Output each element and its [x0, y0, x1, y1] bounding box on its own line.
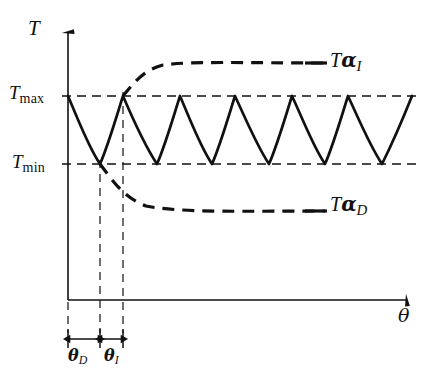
y-axis-label-text: T [28, 16, 40, 40]
tmin-tick-label: Tmin [12, 152, 45, 174]
sawtooth-temperature-curve [68, 96, 412, 164]
t-alpha-d-envelope-curve [100, 164, 325, 211]
t-alpha-i-label: TαI [330, 50, 361, 74]
tmin-label-main: T [12, 151, 23, 172]
tmax-label-main: T [9, 82, 20, 103]
t-alpha-d-label: TαD [330, 194, 367, 218]
temperature-oscillation-figure: T Tmax Tmin TαI TαD θ θD θI [0, 0, 431, 383]
theta-d-dimension-label: θD [68, 348, 87, 367]
t-alpha-i-label-greek: α [341, 48, 356, 72]
t-alpha-d-label-main: T [330, 193, 341, 215]
theta-i-label-sub: I [115, 353, 119, 367]
theta-i-label-main: θ [104, 346, 115, 365]
y-axis-label: T [28, 18, 40, 39]
chart-canvas [0, 0, 431, 383]
t-alpha-d-label-sub: D [357, 202, 368, 218]
x-axis-label-text: θ [398, 304, 409, 326]
t-alpha-d-label-greek: α [341, 192, 356, 216]
guide-lines [68, 92, 123, 333]
tmin-label-sub: min [23, 159, 45, 175]
t-alpha-i-label-main: T [330, 49, 341, 71]
x-axis-label: θ [398, 306, 409, 325]
t-alpha-i-envelope-curve [123, 63, 325, 97]
theta-i-dimension-label: θI [104, 348, 119, 367]
theta-d-label-main: θ [68, 346, 79, 365]
t-alpha-i-label-sub: I [357, 58, 362, 74]
tmax-tick-label: Tmax [9, 83, 44, 105]
tmax-label-sub: max [20, 90, 45, 106]
theta-d-label-sub: D [79, 353, 88, 367]
